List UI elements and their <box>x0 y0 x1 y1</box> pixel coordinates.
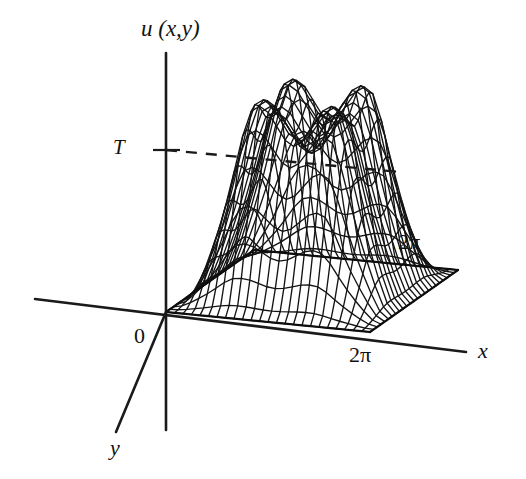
y-extent-label: 2π <box>398 231 420 253</box>
origin-label: 0 <box>134 325 145 347</box>
plot-canvas <box>0 0 526 479</box>
vertical-axis-label: u (x,y) <box>141 17 200 40</box>
level-label-T: T <box>113 137 125 158</box>
y-axis-label: y <box>110 437 120 459</box>
surface-plot-figure: u (x,y) T 0 x y 2π 2π <box>0 0 526 479</box>
wireframe-surface <box>166 79 458 332</box>
x-axis-label: x <box>478 340 488 362</box>
x-extent-label: 2π <box>349 344 371 366</box>
level-label-T-text: T <box>113 135 125 159</box>
